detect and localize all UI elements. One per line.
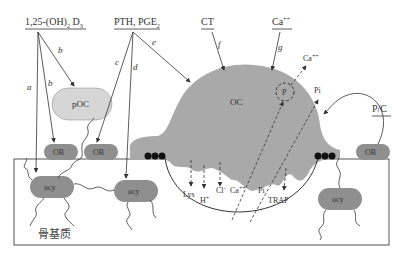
regulator-calcium: Ca++ (272, 16, 292, 29)
ocy-2-label: ocy (128, 187, 140, 196)
sealing-zone-left (145, 153, 166, 160)
bone-matrix-label: 骨基质 (38, 228, 71, 241)
svg-text:PTH, PGE2: PTH, PGE2 (114, 16, 160, 29)
p-marker-label: P (282, 88, 287, 97)
svg-text:Lys: Lys (183, 190, 195, 199)
svg-text:b: b (48, 78, 53, 88)
ocy-1-label: ocy (44, 183, 56, 192)
svg-text:e: e (152, 37, 156, 47)
svg-text:b: b (58, 45, 63, 55)
ob-right-label: OB (365, 148, 376, 157)
bone-remodeling-diagram: OC P pOC OB OB OB ocy ocy ocy 1,25-(OH)2… (0, 0, 406, 255)
released-pi-label: Pi (314, 86, 321, 95)
svg-text:d: d (133, 62, 138, 72)
regulator-pth-pge2: PTH, PGE2 (114, 16, 160, 29)
svg-text:CT: CT (201, 16, 214, 27)
ob-left-2-label: OB (93, 148, 104, 157)
svg-text:P/C: P/C (372, 103, 387, 114)
regulator-vitamin-d: 1,25-(OH)2 D3 (25, 16, 86, 29)
svg-text:g: g (278, 42, 283, 52)
svg-text:Ca++: Ca++ (272, 16, 290, 27)
ocy-3-label: ocy (332, 195, 344, 204)
ob-left-1-label: OB (53, 148, 64, 157)
poc-label: pOC (72, 99, 89, 109)
svg-text:c: c (115, 57, 119, 67)
regulator-calcitonin: CT (201, 16, 214, 29)
svg-text:Pi: Pi (258, 186, 265, 195)
svg-text:TRAP: TRAP (268, 196, 289, 205)
svg-text:1,25-(OH)2 D3: 1,25-(OH)2 D3 (25, 16, 83, 29)
svg-text:a: a (27, 82, 32, 92)
sealing-zone-right (315, 153, 336, 160)
oc-label: OC (230, 97, 243, 107)
svg-text:f: f (218, 39, 222, 49)
released-calcium-label: Ca++ (303, 53, 319, 63)
